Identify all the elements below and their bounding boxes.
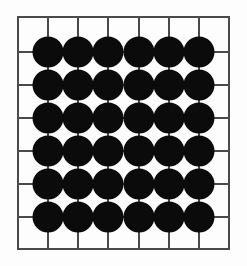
grid-board	[0, 0, 247, 266]
black-stone-r5-c4[interactable]	[154, 202, 185, 233]
black-stone-r1-c4[interactable]	[154, 70, 185, 101]
black-stone-r0-c0[interactable]	[33, 37, 64, 68]
black-stone-r4-c2[interactable]	[93, 169, 124, 200]
black-stone-r5-c3[interactable]	[124, 202, 155, 233]
black-stone-r2-c0[interactable]	[33, 103, 64, 134]
black-stone-r0-c3[interactable]	[124, 37, 155, 68]
black-stone-r3-c3[interactable]	[124, 136, 155, 167]
black-stone-r2-c3[interactable]	[124, 103, 155, 134]
black-stone-r1-c1[interactable]	[63, 70, 94, 101]
black-stone-r5-c1[interactable]	[63, 202, 94, 233]
black-stone-r1-c0[interactable]	[33, 70, 64, 101]
black-stone-r4-c5[interactable]	[184, 169, 215, 200]
black-stone-r1-c2[interactable]	[93, 70, 124, 101]
black-stone-r4-c0[interactable]	[33, 169, 64, 200]
black-stone-r5-c0[interactable]	[33, 202, 64, 233]
black-stone-r4-c1[interactable]	[63, 169, 94, 200]
black-stone-r3-c2[interactable]	[93, 136, 124, 167]
black-stone-r3-c1[interactable]	[63, 136, 94, 167]
black-stone-r0-c5[interactable]	[184, 37, 215, 68]
black-stone-r3-c4[interactable]	[154, 136, 185, 167]
black-stone-r0-c4[interactable]	[154, 37, 185, 68]
black-stone-r3-c0[interactable]	[33, 136, 64, 167]
black-stone-r0-c2[interactable]	[93, 37, 124, 68]
black-stone-r2-c5[interactable]	[184, 103, 215, 134]
black-stone-r0-c1[interactable]	[63, 37, 94, 68]
black-stone-r4-c3[interactable]	[124, 169, 155, 200]
black-stone-r4-c4[interactable]	[154, 169, 185, 200]
black-stone-r3-c5[interactable]	[184, 136, 215, 167]
black-stone-r1-c3[interactable]	[124, 70, 155, 101]
black-stone-r1-c5[interactable]	[184, 70, 215, 101]
black-stone-r2-c2[interactable]	[93, 103, 124, 134]
figure-root	[0, 0, 247, 266]
black-stone-r2-c1[interactable]	[63, 103, 94, 134]
black-stone-r2-c4[interactable]	[154, 103, 185, 134]
black-stone-r5-c5[interactable]	[184, 202, 215, 233]
black-stone-r5-c2[interactable]	[93, 202, 124, 233]
